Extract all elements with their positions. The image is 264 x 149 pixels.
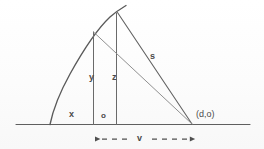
slant-line-s bbox=[118, 13, 193, 125]
label-horizontal-x: x bbox=[69, 110, 74, 119]
label-span-v: v bbox=[137, 134, 142, 143]
label-origin-o: o bbox=[101, 112, 106, 120]
label-height-z: z bbox=[112, 73, 117, 82]
figure-root: y z x o s (d,o) v bbox=[0, 0, 264, 149]
slant-line-lower bbox=[94, 32, 193, 124]
trajectory-curve bbox=[50, 6, 126, 125]
label-slant-s: s bbox=[150, 52, 155, 61]
label-point-d: (d,o) bbox=[196, 110, 215, 119]
trajectory-diagram-svg bbox=[0, 0, 264, 149]
label-height-y: y bbox=[89, 73, 94, 82]
